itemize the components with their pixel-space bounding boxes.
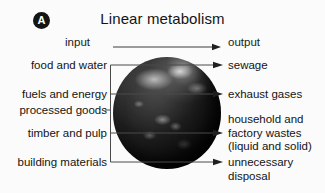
output-line: unnecessary xyxy=(228,156,293,170)
figure-canvas: A Linear metabolism input output food an… xyxy=(0,0,325,193)
output-line: household and xyxy=(228,113,312,127)
input-item-fuels-and-energy: fuels and energy xyxy=(22,88,107,100)
arrow-right-icon xyxy=(113,43,221,51)
input-item-timber-and-pulp: timber and pulp xyxy=(28,127,107,139)
globe-shading xyxy=(113,57,221,169)
output-item-household-factory-wastes: household and factory wastes (liquid and… xyxy=(228,113,312,154)
output-item-unnecessary-disposal: unnecessary disposal xyxy=(228,156,293,183)
output-item-sewage: sewage xyxy=(228,59,268,73)
input-item-food-and-water: food and water xyxy=(31,59,107,71)
earth-globe-icon xyxy=(113,57,221,169)
output-line: (liquid and solid) xyxy=(228,140,312,154)
input-label: input xyxy=(65,36,90,48)
output-line: factory wastes xyxy=(228,127,312,141)
input-item-processed-goods: processed goods xyxy=(19,104,107,116)
output-line: exhaust gases xyxy=(228,88,302,102)
output-label: output xyxy=(228,36,260,48)
input-item-building-materials: building materials xyxy=(18,156,108,168)
output-item-exhaust-gases: exhaust gases xyxy=(228,88,302,102)
output-line: sewage xyxy=(228,59,268,73)
input-output-row: input output xyxy=(0,36,325,52)
output-line: disposal xyxy=(228,170,293,184)
figure-title: Linear metabolism xyxy=(0,10,325,27)
